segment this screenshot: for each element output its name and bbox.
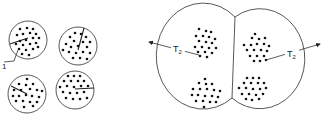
small-cell-top-right	[59, 27, 97, 65]
chromatin-cluster-left-top	[194, 28, 218, 59]
small-cell-top-left	[9, 21, 47, 59]
dividing-cell-panel: T2 T2	[149, 3, 320, 109]
radius-line	[75, 88, 94, 89]
chromatin-dots	[59, 75, 90, 101]
diagram-canvas: 1	[0, 0, 326, 132]
left-cell-membrane	[156, 3, 235, 109]
small-cell-bottom-right	[56, 71, 94, 109]
cell-division-diagram: 1	[0, 0, 326, 132]
chromatin-dots	[12, 78, 44, 109]
chromatin-cluster-left-bottom	[191, 78, 222, 109]
figure-label: 1	[2, 62, 7, 71]
division-membrane	[232, 17, 235, 98]
chromatin-dots	[62, 32, 92, 61]
chromatin-cluster-right-top	[243, 33, 271, 63]
small-cells-panel: 1	[2, 21, 97, 113]
small-cell-bottom-left	[8, 75, 46, 113]
chromatin-cluster-right-bottom	[238, 77, 268, 102]
label-leader-line	[4, 50, 18, 62]
